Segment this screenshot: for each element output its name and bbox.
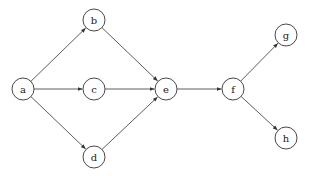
node-f: f [222,78,244,100]
edge-a-d [31,97,86,149]
node-b: b [83,9,105,31]
node-h: h [275,127,297,149]
edge-f-g [241,43,278,81]
edge-f-h [241,96,277,130]
node-a: a [12,78,34,100]
node-b-label: b [91,15,97,26]
node-e-label: e [163,84,169,95]
edge-b-e [102,28,158,81]
node-d: d [83,146,105,168]
node-g-label: g [283,30,290,41]
nodes-layer: a b c d e f g h [12,9,297,168]
node-a-label: a [20,84,26,95]
edge-a-b [31,28,86,81]
node-h-label: h [283,133,290,144]
edge-d-e [102,97,158,150]
graph-canvas: a b c d e f g h [0,0,314,176]
node-d-label: d [91,152,98,163]
node-e: e [155,78,177,100]
node-g: g [275,24,297,46]
node-c: c [83,78,105,100]
node-c-label: c [91,84,97,95]
